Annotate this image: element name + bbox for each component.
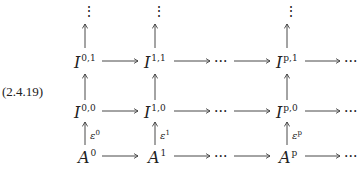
node-Ap: Ap <box>279 149 297 166</box>
arrows-layer <box>0 0 362 169</box>
h-ellipsis-row0: ··· <box>214 104 227 118</box>
h-ellipsis-rowA-end: ··· <box>344 149 357 163</box>
h-ellipsis-row0-end: ··· <box>344 104 357 118</box>
label-e1: ε1 <box>160 130 170 141</box>
vertical-ellipsis-colp: ⋮ <box>284 4 298 18</box>
h-ellipsis-rowA: ··· <box>214 149 227 163</box>
node-I00: I0,0 <box>74 104 96 121</box>
node-I01: I0,1 <box>74 54 96 71</box>
label-e0: ε0 <box>90 130 100 141</box>
node-Ip0: Ip,0 <box>276 104 298 121</box>
label-ep: εp <box>292 130 302 141</box>
node-Ip1: Ip,1 <box>276 54 298 71</box>
node-I10: I1,0 <box>144 104 166 121</box>
h-ellipsis-row1: ··· <box>214 54 227 68</box>
equation-number: (2.4.19) <box>2 84 43 100</box>
node-A0: A0 <box>78 149 96 166</box>
h-ellipsis-row1-end: ··· <box>344 54 357 68</box>
vertical-ellipsis-col1: ⋮ <box>152 4 166 18</box>
node-A1: A1 <box>148 149 166 166</box>
node-I11: I1,1 <box>144 54 166 71</box>
vertical-ellipsis-col0: ⋮ <box>82 4 96 18</box>
